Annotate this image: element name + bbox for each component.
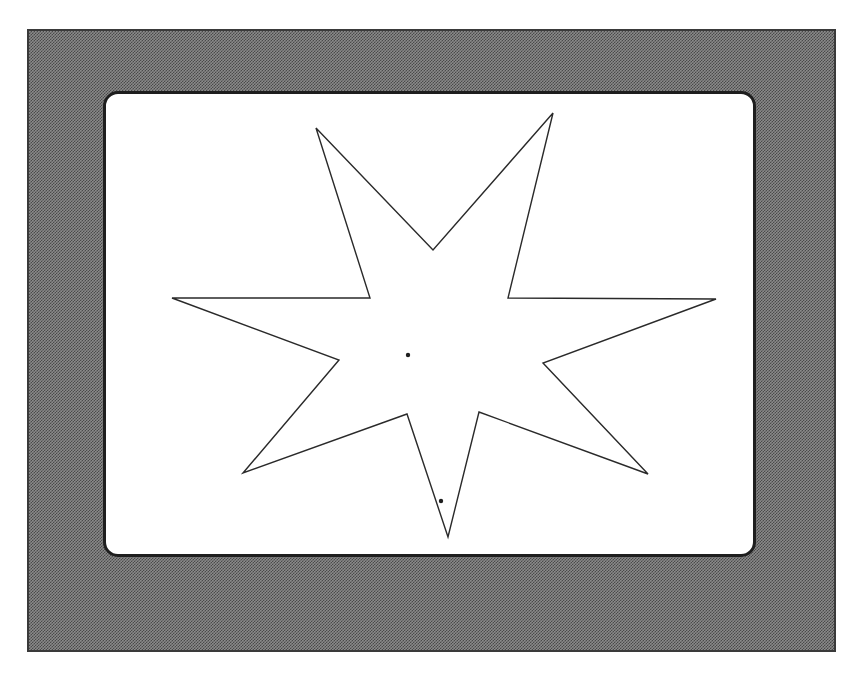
center-dot-marker	[406, 353, 410, 357]
lower-dot-marker	[439, 499, 443, 503]
seven-pointed-star-icon	[172, 113, 716, 537]
drawing-canvas	[0, 0, 862, 676]
